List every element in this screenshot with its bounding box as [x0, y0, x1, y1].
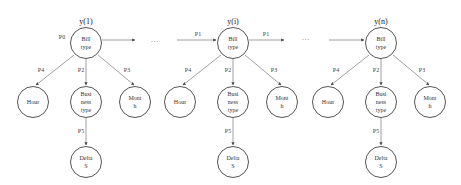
edge-label-p1-out: P1	[263, 31, 269, 37]
edge-label-p3: P3	[124, 67, 130, 73]
node-text: Hour	[322, 98, 334, 106]
node-text: Delta	[375, 155, 388, 161]
node-text: Delta	[227, 155, 240, 161]
node-text: Hour	[174, 98, 186, 106]
node-text: h	[428, 103, 431, 109]
node-text: ness	[228, 99, 238, 105]
node-text: Busi	[227, 91, 238, 97]
node-text: Mont	[423, 95, 436, 101]
node-text: h	[280, 103, 283, 109]
node-text: Busi	[375, 91, 386, 97]
node-text: S	[379, 163, 382, 169]
edge-label-p3: P3	[271, 67, 277, 73]
node-text: type	[81, 44, 91, 50]
column-title-y1: y(1)	[79, 17, 92, 26]
edge-label-p2: P2	[373, 67, 379, 73]
node-delta-s-1: DeltaS	[70, 146, 102, 178]
node-text: type	[376, 107, 386, 113]
edge-label-p1-in: P1	[195, 31, 201, 37]
node-text: S	[84, 163, 87, 169]
edge-label-p2: P2	[78, 67, 84, 73]
node-delta-s-n: DeltaS	[365, 146, 397, 178]
node-month-i: Month	[266, 86, 298, 118]
column-title-yn: y(n)	[374, 17, 387, 26]
node-text: Bill	[81, 36, 90, 42]
edge-label-p2: P2	[225, 67, 231, 73]
node-text: ness	[376, 99, 386, 105]
node-text: Delta	[80, 155, 93, 161]
node-text: ness	[81, 99, 91, 105]
node-month-1: Month	[119, 86, 151, 118]
node-text: h	[133, 103, 136, 109]
node-bill-type-i: Billtype	[217, 27, 249, 59]
node-hour-1: Hour	[17, 86, 49, 118]
node-hour-i: Hour	[164, 86, 196, 118]
node-text: Busi	[80, 91, 91, 97]
edge-label-p3: P3	[419, 67, 425, 73]
node-business-type-n: Businesstype	[365, 86, 397, 118]
edge-label-p5: P5	[225, 128, 231, 134]
edge-label-p5: P5	[78, 128, 84, 134]
node-text: Hour	[27, 98, 39, 106]
node-text: Mont	[128, 95, 141, 101]
node-text: type	[81, 107, 91, 113]
edge-label-p5: P5	[373, 128, 379, 134]
edge-label-p4: P4	[38, 67, 44, 73]
node-month-n: Month	[414, 86, 446, 118]
edge-label-p0: P0	[59, 34, 65, 40]
ellipsis: ...	[151, 36, 159, 44]
node-text: type	[376, 44, 386, 50]
column-title-yi: y(i)	[227, 17, 239, 26]
node-text: Bill	[376, 36, 385, 42]
node-delta-s-i: DeltaS	[217, 146, 249, 178]
node-text: S	[231, 163, 234, 169]
node-text: type	[228, 44, 238, 50]
node-bill-type-n: Billtype	[365, 27, 397, 59]
node-text: Mont	[275, 95, 288, 101]
edge-label-p4: P4	[333, 67, 339, 73]
node-business-type-1: Businesstype	[70, 86, 102, 118]
node-business-type-i: Businesstype	[217, 86, 249, 118]
edge-label-p4: P4	[185, 67, 191, 73]
node-hour-n: Hour	[312, 86, 344, 118]
node-text: type	[228, 107, 238, 113]
node-bill-type-1: Billtype	[70, 27, 102, 59]
node-text: Bill	[228, 36, 237, 42]
